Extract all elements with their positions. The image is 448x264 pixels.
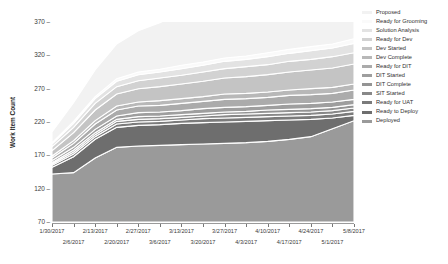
x-axis-tick-mark	[138, 224, 139, 227]
legend-item-label: Proposed	[376, 10, 400, 16]
legend-color-swatch	[362, 29, 372, 32]
x-axis-tick-mark	[52, 224, 53, 227]
x-axis-tick-label: 4/3/2017	[235, 239, 257, 245]
x-axis-tick-mark	[332, 224, 333, 227]
plot-area	[52, 22, 354, 222]
x-axis-tick-label: 4/10/2017	[255, 228, 280, 234]
legend-item[interactable]: Ready for Dev	[362, 35, 448, 44]
legend-item-label: Ready to Deploy	[376, 109, 418, 115]
legend-item[interactable]: Dev Complete	[362, 53, 448, 62]
legend-color-swatch	[362, 38, 372, 41]
y-axis-tick-label: 270–	[34, 85, 50, 92]
y-axis-tick-mark: –	[46, 118, 50, 125]
legend-item-label: DIT Complete	[376, 82, 411, 88]
y-axis-tick-mark: –	[46, 185, 50, 192]
legend-item[interactable]: Ready for DIT	[362, 62, 448, 71]
legend-color-swatch	[362, 56, 372, 59]
legend-item-label: Deployed	[376, 118, 400, 124]
legend: ProposedReady for GroomingSolution Analy…	[362, 8, 448, 126]
x-axis-tick-label: 1/30/2017	[40, 228, 65, 234]
x-axis-tick-mark	[181, 224, 182, 227]
legend-item-label: Ready for DIT	[376, 64, 411, 70]
legend-item[interactable]: Ready to Deploy	[362, 108, 448, 117]
legend-color-swatch	[362, 47, 372, 50]
x-axis-tick-label: 3/6/2017	[149, 239, 171, 245]
legend-color-swatch	[362, 20, 372, 23]
legend-color-swatch	[362, 101, 372, 104]
legend-item[interactable]: Deployed	[362, 117, 448, 126]
x-axis-tick-mark	[246, 224, 247, 227]
x-axis-tick-mark	[311, 224, 312, 227]
legend-item-label: Solution Analysis	[376, 28, 419, 34]
legend-item-label: Dev Started	[376, 46, 406, 52]
x-axis-tick-mark	[117, 224, 118, 227]
x-axis-tick-label: 2/6/2017	[63, 239, 85, 245]
x-axis-tick-label: 5/8/2017	[343, 228, 365, 234]
x-axis-tick-mark	[289, 224, 290, 227]
x-axis-tick-mark	[203, 224, 204, 227]
x-axis-tick-mark	[225, 224, 226, 227]
x-axis-tick-label: 4/24/2017	[298, 228, 323, 234]
legend-item-label: Ready for UAT	[376, 100, 413, 106]
x-axis-tick-label: 2/20/2017	[104, 239, 129, 245]
y-axis-tick-mark: –	[46, 18, 50, 25]
x-axis-tick-mark	[74, 224, 75, 227]
stacked-area-series-group	[52, 22, 354, 222]
y-axis-title: Work Item Count	[0, 60, 12, 150]
y-axis-tick-label: 170–	[34, 151, 50, 158]
legend-item-label: Dev Complete	[376, 55, 412, 61]
legend-item[interactable]: SIT Started	[362, 89, 448, 98]
x-axis-line	[52, 223, 354, 224]
legend-item[interactable]: Ready for UAT	[362, 98, 448, 107]
cumulative-flow-chart: Work Item Count 370–320–270–220–170–120–…	[0, 0, 448, 264]
legend-item[interactable]: DIT Complete	[362, 80, 448, 89]
x-axis-tick-label: 4/17/2017	[277, 239, 302, 245]
legend-item[interactable]: Solution Analysis	[362, 26, 448, 35]
legend-color-swatch	[362, 83, 372, 86]
y-axis-tick-label: 120–	[34, 185, 50, 192]
y-axis-tick-mark: –	[46, 85, 50, 92]
legend-color-swatch	[362, 120, 372, 123]
legend-item[interactable]: DIT Started	[362, 71, 448, 80]
x-axis-tick-mark	[160, 224, 161, 227]
x-axis-tick-mark	[95, 224, 96, 227]
legend-item-label: Ready for Grooming	[376, 19, 427, 25]
x-axis-tick-label: 3/20/2017	[191, 239, 216, 245]
x-axis-tick-mark	[268, 224, 269, 227]
legend-color-swatch	[362, 65, 372, 68]
legend-color-swatch	[362, 92, 372, 95]
x-axis-tick-label: 3/27/2017	[212, 228, 237, 234]
x-axis-tick-label: 5/1/2017	[322, 239, 344, 245]
x-axis-tick-label: 2/13/2017	[83, 228, 108, 234]
x-axis-tick-labels: 1/30/20172/13/20172/27/20173/13/20173/27…	[0, 224, 448, 264]
x-axis-tick-mark	[354, 224, 355, 227]
y-axis-tick-label: 370–	[34, 18, 50, 25]
y-axis-tick-mark: –	[46, 51, 50, 58]
legend-color-swatch	[362, 74, 372, 77]
y-axis-tick-label: 220–	[34, 118, 50, 125]
x-axis-tick-label: 2/27/2017	[126, 228, 151, 234]
legend-color-swatch	[362, 11, 372, 14]
legend-item[interactable]: Proposed	[362, 8, 448, 17]
y-axis-tick-label: 320–	[34, 51, 50, 58]
legend-item-label: SIT Started	[376, 91, 405, 97]
legend-item-label: DIT Started	[376, 73, 405, 79]
legend-color-swatch	[362, 111, 372, 114]
legend-item[interactable]: Ready for Grooming	[362, 17, 448, 26]
legend-item[interactable]: Dev Started	[362, 44, 448, 53]
x-axis-tick-label: 3/13/2017	[169, 228, 194, 234]
y-axis-tick-mark: –	[46, 151, 50, 158]
legend-item-label: Ready for Dev	[376, 37, 412, 43]
